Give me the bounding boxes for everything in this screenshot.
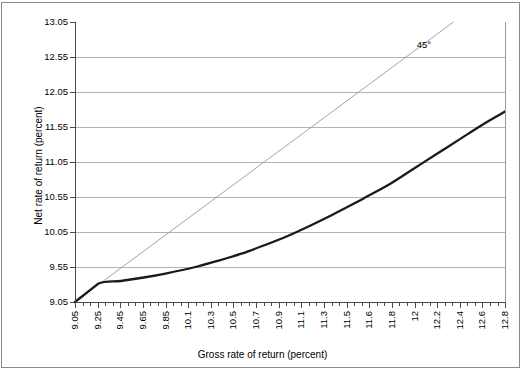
x-tick-minor: [128, 302, 129, 306]
x-tick-mark: [188, 302, 189, 308]
x-tick-label: 10.9: [274, 311, 284, 330]
x-tick-mark: [211, 302, 212, 308]
x-tick-mark: [415, 302, 416, 308]
x-tick-mark: [369, 302, 370, 308]
x-tick-label: 9.65: [138, 311, 148, 330]
plot-right-edge: [505, 22, 506, 303]
x-tick-minor: [83, 302, 84, 306]
y-tick-label: 10.05: [44, 227, 68, 237]
x-tick-mark: [256, 302, 257, 308]
x-tick-minor: [467, 302, 468, 306]
x-tick-minor: [430, 302, 431, 306]
x-tick-minor: [384, 302, 385, 306]
y-tick-label: 12.05: [44, 87, 68, 97]
x-tick-mark: [505, 302, 506, 308]
x-tick-minor: [362, 302, 363, 306]
x-tick-label: 11.8: [387, 311, 397, 329]
y-tick-label: 12.55: [44, 52, 68, 62]
data-curves: [75, 22, 505, 302]
x-tick-minor: [407, 302, 408, 306]
x-tick-mark: [324, 302, 325, 308]
x-tick-mark: [347, 302, 348, 308]
x-tick-mark: [120, 302, 121, 308]
y-tick-label: 13.05: [44, 17, 68, 27]
reference-line-45-degree: [75, 22, 453, 302]
x-tick-label: 12.4: [455, 311, 465, 330]
y-tick-label: 10.55: [44, 192, 68, 202]
x-tick-minor: [316, 302, 317, 306]
x-tick-mark: [392, 302, 393, 308]
x-tick-minor: [294, 302, 295, 306]
y-tick-label: 9.55: [50, 262, 69, 272]
x-tick-minor: [286, 302, 287, 306]
x-tick-label: 10.7: [251, 311, 261, 330]
x-tick-mark: [75, 302, 76, 308]
x-tick-minor: [90, 302, 91, 306]
x-tick-minor: [445, 302, 446, 306]
x-axis-title: Gross rate of return (percent): [0, 349, 525, 360]
x-tick-minor: [135, 302, 136, 306]
x-tick-minor: [264, 302, 265, 306]
x-tick-label: 11.5: [342, 311, 352, 329]
x-tick-mark: [166, 302, 167, 308]
y-axis-title: Net rate of return (percent): [33, 66, 44, 266]
x-tick-label: 12.2: [432, 311, 442, 330]
x-tick-minor: [241, 302, 242, 306]
x-tick-label: 12.8: [500, 311, 510, 330]
x-tick-label: 10.3: [206, 311, 216, 330]
x-tick-minor: [226, 302, 227, 306]
x-tick-label: 11.3: [319, 311, 329, 329]
x-tick-mark: [482, 302, 483, 308]
x-tick-mark: [279, 302, 280, 308]
x-tick-minor: [422, 302, 423, 306]
x-tick-minor: [377, 302, 378, 306]
x-tick-minor: [490, 302, 491, 306]
x-tick-minor: [332, 302, 333, 306]
x-tick-minor: [309, 302, 310, 306]
x-tick-minor: [218, 302, 219, 306]
y-tick-label: 11.05: [45, 157, 68, 167]
x-tick-minor: [339, 302, 340, 306]
x-tick-minor: [196, 302, 197, 306]
y-axis-line: [75, 22, 76, 303]
x-tick-label: 12.6: [477, 311, 487, 330]
x-tick-label: 9.25: [93, 311, 103, 330]
x-tick-minor: [181, 302, 182, 306]
x-tick-minor: [105, 302, 106, 306]
x-tick-minor: [158, 302, 159, 306]
x-tick-mark: [460, 302, 461, 308]
chart-figure: Net rate of return (percent) 9.059.5510.…: [0, 0, 525, 372]
x-tick-mark: [301, 302, 302, 308]
x-tick-minor: [399, 302, 400, 306]
x-tick-minor: [113, 302, 114, 306]
x-tick-mark: [143, 302, 144, 308]
x-tick-minor: [452, 302, 453, 306]
plot-area: 9.059.5510.0510.5511.0511.5512.0512.5513…: [75, 22, 505, 302]
y-tick-label: 11.55: [45, 122, 68, 132]
x-tick-minor: [354, 302, 355, 306]
x-tick-label: 11.6: [364, 311, 374, 329]
x-tick-mark: [437, 302, 438, 308]
x-axis-line: [75, 302, 506, 303]
x-tick-minor: [475, 302, 476, 306]
x-tick-minor: [249, 302, 250, 306]
x-tick-label: 9.85: [161, 311, 171, 330]
x-tick-label: 11.1: [296, 311, 306, 329]
y-tick-label: 9.05: [50, 297, 69, 307]
forty-five-degree-label: 45°: [417, 39, 431, 50]
x-tick-minor: [173, 302, 174, 306]
x-tick-label: 12: [410, 311, 420, 322]
x-tick-label: 10.5: [228, 311, 238, 330]
x-tick-minor: [203, 302, 204, 306]
x-tick-minor: [150, 302, 151, 306]
y-axis-title-wrapper: Net rate of return (percent): [18, 40, 38, 260]
x-tick-label: 10.1: [183, 311, 193, 330]
x-tick-mark: [98, 302, 99, 308]
x-tick-label: 9.45: [115, 311, 125, 330]
x-tick-label: 9.05: [70, 311, 80, 330]
x-tick-minor: [271, 302, 272, 306]
net-return-curve: [75, 112, 505, 302]
x-tick-minor: [498, 302, 499, 306]
x-tick-mark: [233, 302, 234, 308]
